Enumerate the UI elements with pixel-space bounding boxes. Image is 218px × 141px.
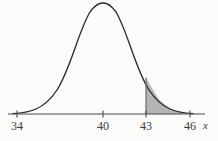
- x-axis-title: x: [203, 120, 208, 131]
- normal-curve-line: [13, 3, 193, 114]
- x-tick-label-40: 40: [91, 120, 115, 132]
- x-tick-label-43: 43: [134, 120, 158, 132]
- x-tick-label-34: 34: [5, 120, 29, 132]
- normal-distribution-figure: 34 40 43 46 x: [0, 0, 218, 141]
- x-tick-label-46: 46: [178, 120, 202, 132]
